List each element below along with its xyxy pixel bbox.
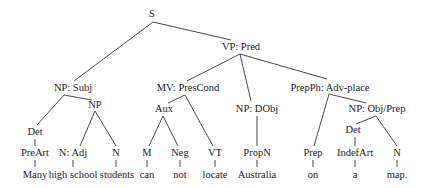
edge-PrepPh-Prep [314,94,329,146]
edge-S-VP [153,22,231,40]
node-N2: N [393,148,401,159]
edge-NP1-N1 [95,111,116,146]
edge-Aux-M [149,116,163,146]
node-NPSubj: NP: Subj [54,83,92,94]
tree-edges [0,0,427,188]
node-Det1: Det [27,127,42,138]
word-locate: locate [202,170,227,181]
node-N1: N [112,148,120,159]
word-can: can [140,170,155,181]
node-Det2: Det [345,125,360,136]
edge-VP-MV [187,54,240,81]
node-VT: VT [208,148,222,159]
word-on: on [308,170,319,181]
word-not: not [173,170,186,181]
edge-VP-NPDObj [240,54,251,101]
edge-Aux-Neg [163,116,178,146]
node-NP1: NP [88,100,101,111]
word-map: map. [387,170,408,181]
word-australia: Australia [238,170,277,181]
edge-PrepPh-NPObjPrep [329,94,366,103]
word-students: students [100,170,134,181]
node-S: S [149,9,155,20]
edge-NPSubj-Det1 [37,95,64,125]
word-a: a [353,170,358,181]
edge-S-NPSubj [74,22,153,81]
node-PrepPh: PrepPh: Adv-place [290,83,369,94]
node-PropN: PropN [243,148,270,159]
node-VP: VP: Pred [222,42,260,53]
node-Prep: Prep [303,148,322,159]
node-PreArt: PreArt [21,148,49,159]
edge-NPObjPrep-N2 [376,116,397,146]
edge-NP1-NAdj [80,111,95,146]
node-Aux: Aux [155,104,173,115]
node-NAdj: N: Adj [59,148,87,159]
word-highschool: high school [49,170,98,181]
node-M: M [142,148,151,159]
word-many: Many [23,170,48,181]
syntax-tree-diagram: SVP: PredNP: SubjMV: PresCondPrepPh: Adv… [0,0,427,188]
node-MV: MV: PresCond [157,83,220,94]
edge-VP-PrepPh [240,54,327,79]
node-NPObjPrep: NP: Obj/Prep [349,104,406,115]
node-Neg: Neg [171,148,189,159]
node-NPDObj: NP: DObj [236,104,278,115]
edge-MV-VT [185,95,213,146]
node-IndefArt: IndefArt [337,148,373,159]
